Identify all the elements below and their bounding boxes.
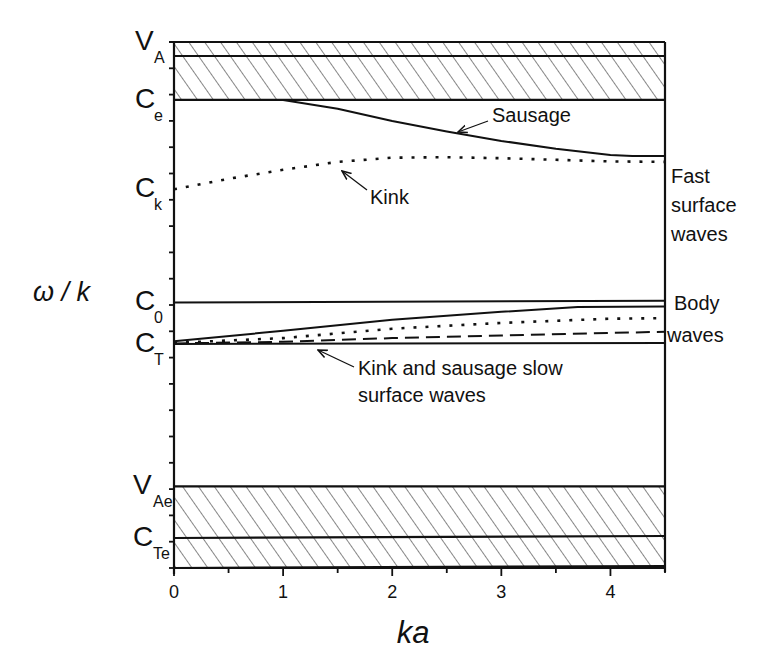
y-label-c-te: CTe [133,521,170,562]
series-kink-fast-surface [174,157,665,189]
slow-surface-label-line2: surface waves [358,384,486,406]
sausage-label: Sausage [492,104,571,126]
series-ct-line [174,343,665,344]
series-body-wave-solid [174,307,665,342]
sausage-arrow [458,121,488,132]
body-waves-label-line1: Body [674,292,720,314]
y-label-main: C [135,172,155,203]
y-label-c-k: Ck [135,172,163,213]
x-tick-label: 4 [605,582,615,602]
y-label-main: C [133,521,153,552]
x-tick-label: 1 [278,582,288,602]
y-label-main: V [133,469,152,500]
series-group [174,100,665,344]
x-tick-label: 3 [496,582,506,602]
x-tick-label: 2 [387,582,397,602]
slow-surface-arrow [318,350,354,367]
annotation-body-waves: Body waves [666,292,724,346]
y-label-subscript: 0 [154,309,163,326]
annotation-sausage: Sausage [458,104,571,132]
hatched-bands [174,42,665,568]
kink-label: Kink [370,186,410,208]
y-label-v-a: VA [135,25,165,66]
y-label-main: C [135,327,155,358]
fast-surface-label-line2: surface [671,194,737,216]
upper-band [174,42,665,100]
y-label-main: C [135,83,155,114]
y-label-subscript: T [154,351,164,368]
annotation-kink: Kink [342,171,410,208]
series-sausage-fast-surface [174,100,665,156]
slow-surface-label-line1: Kink and sausage slow [358,357,563,379]
y-label-main: C [135,285,155,316]
lower-band [174,486,665,568]
annotation-slow-surface: Kink and sausage slow surface waves [318,350,563,406]
kink-arrow [342,171,367,190]
y-label-v-ae: VAe [133,469,173,510]
y-label-c-0: C0 [135,285,163,326]
y-label-c-t: CT [135,327,164,368]
y-label-c-e: Ce [135,83,163,124]
series-c0-line [174,301,665,303]
body-waves-label-line2: waves [666,324,724,346]
x-tick-labels: 01234 [169,582,615,602]
y-label-subscript: Te [153,545,170,562]
y-label-subscript: k [154,196,163,213]
y-label-subscript: Ae [153,493,173,510]
x-axis-title: ka [397,615,430,650]
fast-surface-label-line3: waves [670,223,728,245]
y-speed-labels: VACeCkC0CTVAeCTe [133,25,173,562]
dispersion-chart: VACeCkC0CTVAeCTe 01234 ω / k ka Sausage … [0,0,784,666]
y-label-subscript: e [154,107,163,124]
y-axis-title: ω / k [33,277,92,307]
x-tick-label: 0 [169,582,179,602]
series-body-wave-dotted [174,318,665,343]
y-label-main: V [135,25,154,56]
fast-surface-label-line1: Fast [671,165,710,187]
y-label-subscript: A [154,49,165,66]
annotation-fast-surface: Fast surface waves [670,165,737,245]
